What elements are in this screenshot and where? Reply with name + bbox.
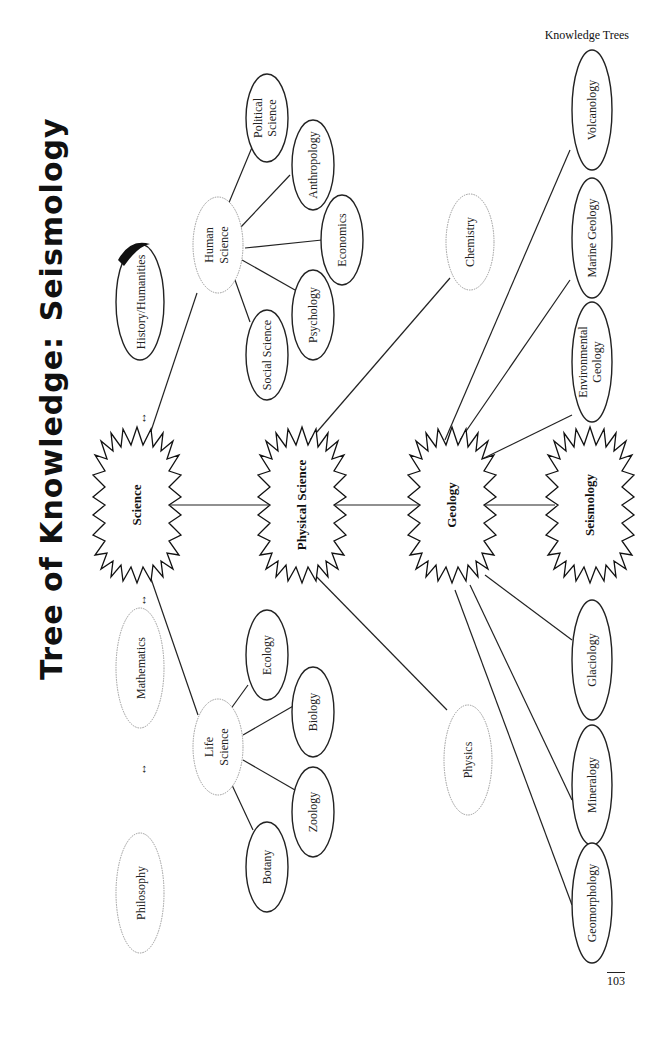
svg-text:Environmental: Environmental	[576, 326, 590, 398]
svg-text:Seismology: Seismology	[582, 473, 597, 536]
node-philosophy: Philosophy	[116, 833, 164, 953]
svg-text:Science: Science	[217, 728, 231, 765]
node-physics: Physics	[444, 705, 492, 815]
node-economics: Economics	[321, 195, 363, 285]
node-social-science: Social Science	[246, 310, 288, 400]
node-science: Science	[93, 427, 181, 583]
arrow-icon: ↔	[135, 412, 149, 424]
node-life-science: Life Science	[193, 699, 243, 795]
svg-text:Chemistry: Chemistry	[463, 217, 477, 267]
diagram-title: Tree of Knowledge: Seismology	[34, 117, 69, 680]
svg-text:Biology: Biology	[306, 693, 320, 732]
node-geology: Geology	[408, 427, 496, 583]
svg-text:Ecology: Ecology	[260, 635, 274, 675]
node-zoology: Zoology	[292, 767, 334, 857]
node-mineralogy: Mineralogy	[572, 725, 612, 845]
node-volcanology: Volcanology	[572, 50, 612, 170]
svg-text:Physical Science: Physical Science	[294, 459, 309, 550]
arrow-icon: ↔	[135, 763, 149, 775]
node-seismology: Seismology	[546, 427, 634, 583]
svg-text:Life: Life	[202, 737, 216, 757]
arrow-icon: ↔	[135, 594, 149, 606]
svg-text:Geology: Geology	[444, 482, 459, 528]
knowledge-tree-diagram: Tree of Knowledge: Seismology	[0, 0, 667, 1037]
svg-text:Science: Science	[129, 484, 144, 525]
svg-text:Geomorphology: Geomorphology	[585, 864, 599, 943]
node-political-science: Political Science	[246, 74, 288, 162]
svg-text:Science: Science	[217, 226, 231, 263]
svg-text:Marine Geology: Marine Geology	[585, 199, 599, 278]
node-mathematics: Mathematics	[116, 608, 164, 728]
svg-text:Mineralogy: Mineralogy	[585, 757, 599, 813]
node-biology: Biology	[292, 667, 334, 757]
svg-text:Mathematics: Mathematics	[134, 637, 148, 699]
node-psychology: Psychology	[292, 270, 334, 360]
node-geomorphology: Geomorphology	[572, 843, 612, 963]
svg-text:Glaciology: Glaciology	[585, 633, 599, 686]
svg-text:Zoology: Zoology	[306, 792, 320, 833]
svg-text:Human: Human	[202, 227, 216, 262]
node-physical-science: Physical Science	[258, 427, 346, 583]
svg-text:Botany: Botany	[260, 850, 274, 885]
svg-text:Psychology: Psychology	[306, 287, 320, 343]
node-glaciology: Glaciology	[572, 600, 612, 720]
svg-text:Physics: Physics	[461, 741, 475, 778]
svg-text:Volcanology: Volcanology	[585, 80, 599, 140]
svg-text:Economics: Economics	[335, 213, 349, 267]
svg-text:History/Humanities: History/Humanities	[134, 254, 148, 349]
node-history-humanities: History/Humanities	[116, 243, 164, 360]
svg-text:Science: Science	[265, 99, 279, 136]
svg-text:Geology: Geology	[590, 341, 604, 382]
node-botany: Botany	[246, 822, 288, 912]
node-human-science: Human Science	[193, 197, 243, 293]
node-marine-geology: Marine Geology	[572, 178, 612, 298]
svg-text:Social Science: Social Science	[260, 320, 274, 390]
node-ecology: Ecology	[246, 610, 288, 700]
node-anthropology: Anthropology	[292, 120, 334, 210]
node-environmental-geology: Environmental Geology	[572, 302, 612, 422]
svg-text:Anthropology: Anthropology	[306, 131, 320, 198]
svg-text:Political: Political	[251, 97, 265, 138]
node-chemistry: Chemistry	[446, 194, 494, 290]
svg-text:Philosophy: Philosophy	[134, 866, 148, 920]
